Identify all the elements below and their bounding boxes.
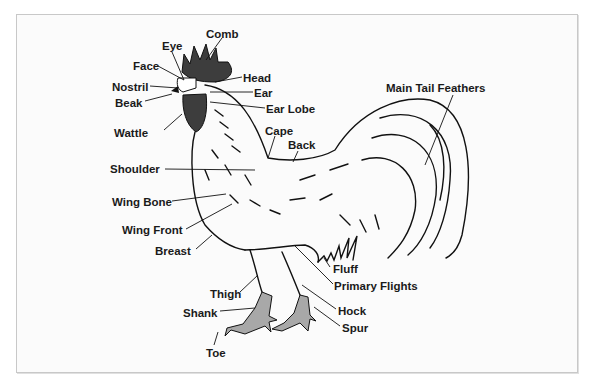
label-wing-front: Wing Front	[122, 224, 183, 236]
label-ear: Ear	[254, 87, 273, 99]
comb-shape	[182, 44, 232, 82]
label-eye: Eye	[162, 40, 182, 52]
label-comb: Comb	[206, 28, 239, 40]
label-face: Face	[133, 60, 159, 72]
label-wing-bone: Wing Bone	[112, 196, 172, 208]
label-shoulder: Shoulder	[110, 163, 160, 175]
rooster-illustration	[0, 0, 591, 385]
label-beak: Beak	[115, 97, 143, 109]
label-main-tail-feathers: Main Tail Feathers	[386, 82, 485, 94]
label-primary-flights: Primary Flights	[334, 280, 418, 292]
label-fluff: Fluff	[333, 263, 358, 275]
label-cape: Cape	[265, 125, 293, 137]
label-breast: Breast	[155, 245, 191, 257]
label-toe: Toe	[206, 347, 226, 359]
label-ear-lobe: Ear Lobe	[266, 103, 315, 115]
label-hock: Hock	[338, 305, 366, 317]
label-back: Back	[288, 139, 316, 151]
label-wattle: Wattle	[114, 127, 148, 139]
label-shank: Shank	[183, 307, 218, 319]
label-nostril: Nostril	[112, 81, 148, 93]
label-head: Head	[243, 72, 271, 84]
label-thigh: Thigh	[210, 288, 241, 300]
label-spur: Spur	[342, 322, 368, 334]
